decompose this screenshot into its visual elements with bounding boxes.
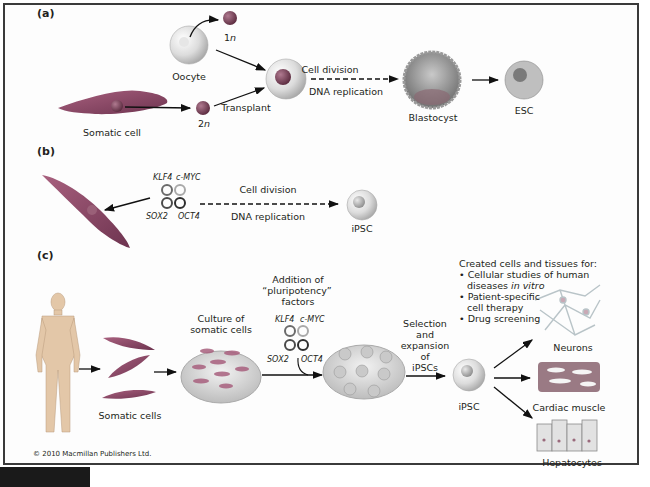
- use-item-1-line2: diseases in vitro: [467, 280, 544, 291]
- cell-division-label-a: Cell division: [301, 64, 358, 75]
- culture-label-2: somatic cells: [190, 324, 252, 335]
- ipsc-cell-b: [347, 190, 377, 220]
- factor-sox2-b: SOX2: [146, 211, 168, 222]
- human-figure: [36, 293, 80, 432]
- transplant-label: Transplant: [221, 102, 270, 113]
- copyright-notice: © 2010 Macmillan Publishers Ltd.: [33, 450, 151, 458]
- use-item-1-line2-text: diseases: [467, 280, 511, 291]
- factor-cmyc-c: c-MYC: [300, 314, 325, 325]
- use-item-1-italic: in vitro: [511, 280, 544, 291]
- selection-label-2: and: [416, 329, 434, 340]
- use-item-1-line1: Cellular studies of human: [468, 269, 590, 280]
- use-item-3-line1: Drug screening: [468, 313, 541, 324]
- use-item-1: • Cellular studies of human: [459, 269, 589, 280]
- hepatocytes-illustration: [537, 420, 597, 451]
- factor-klf4-c: KLF4: [275, 314, 294, 325]
- somatic-cell-b: [42, 175, 130, 248]
- ipsc-label-c: iPSC: [458, 401, 479, 412]
- cell-division-label-b: Cell division: [239, 184, 296, 195]
- esc-cell: [505, 61, 543, 99]
- culture-dish: [181, 349, 261, 404]
- diploid-label: 2n: [198, 118, 210, 129]
- uses-title: Created cells and tissues for:: [459, 258, 597, 269]
- use-item-2: • Patient-specific: [459, 291, 540, 302]
- diploid-n: n: [204, 118, 210, 129]
- addition-label-1: Addition of: [272, 274, 323, 285]
- use-item-2-line2: cell therapy: [467, 302, 523, 313]
- somatic-cells-label: Somatic cells: [99, 410, 162, 421]
- panel-b-label: (b): [37, 146, 55, 157]
- factor-oct4-c: OCT4: [301, 354, 323, 365]
- factor-rings-c: [285, 326, 308, 350]
- esc-label: ESC: [515, 105, 534, 116]
- culture-label-1: Culture of: [198, 313, 245, 324]
- selection-label-4: of: [420, 351, 429, 362]
- diploid-nucleus: [196, 101, 210, 115]
- factor-sox2-c: SOX2: [267, 354, 289, 365]
- cardiac-muscle-label: Cardiac muscle: [533, 402, 606, 413]
- selection-label-3: expansion: [401, 340, 450, 351]
- oocyte-cell: [170, 26, 208, 64]
- neurons-illustration: [535, 285, 600, 335]
- cardiac-muscle-illustration: [538, 362, 600, 392]
- somatic-cell-label: Somatic cell: [83, 127, 141, 138]
- blastocyst-label: Blastocyst: [409, 112, 458, 123]
- reconstructed-egg: [266, 59, 306, 99]
- haploid-n: n: [230, 32, 236, 43]
- use-item-3: • Drug screening: [459, 313, 540, 324]
- panel-a-label: (a): [37, 8, 54, 19]
- ipsc-label-b: iPSC: [351, 223, 372, 234]
- addition-label-3: factors: [282, 296, 315, 307]
- selection-label-5: iPSCs: [412, 362, 438, 373]
- ipsc-colony-dish: [323, 345, 405, 399]
- factor-klf4-b: KLF4: [153, 172, 172, 183]
- use-item-2-line1: Patient-specific: [468, 291, 540, 302]
- factor-rings-b: [162, 185, 185, 208]
- neurons-label: Neurons: [553, 342, 592, 353]
- haploid-label: 1n: [224, 32, 236, 43]
- addition-label-2: “pluripotency”: [262, 285, 331, 296]
- blastocyst: [404, 52, 460, 108]
- haploid-nucleus: [223, 11, 237, 25]
- somatic-cells-trio: [102, 337, 156, 399]
- oocyte-label: Oocyte: [172, 71, 206, 82]
- dna-replication-label-a: DNA replication: [309, 86, 383, 97]
- selection-label-1: Selection: [403, 318, 447, 329]
- panel-c-label: (c): [37, 250, 54, 261]
- hepatocytes-label: Hepatocytes: [542, 457, 602, 468]
- factor-oct4-b: OCT4: [178, 211, 200, 222]
- factor-cmyc-b: c-MYC: [176, 172, 201, 183]
- dna-replication-label-b: DNA replication: [231, 211, 305, 222]
- ipsc-cell-c: [453, 359, 485, 391]
